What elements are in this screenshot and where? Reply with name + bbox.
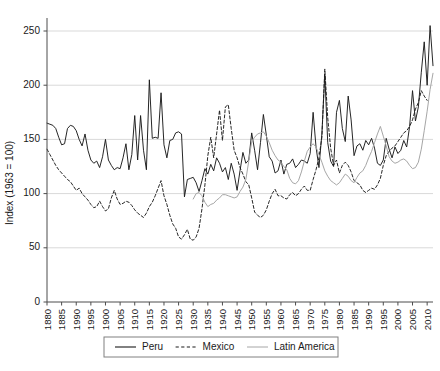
- x-tick-label-1: 1885: [56, 309, 67, 330]
- line-chart: 050100150200250 188018851990199519001905…: [0, 0, 440, 371]
- legend-label-latin-america: Latin America: [274, 341, 335, 352]
- x-tick-label-20: 1980: [334, 309, 345, 330]
- x-tick-label-17: 1965: [290, 309, 301, 330]
- y-tick-label-150: 150: [23, 133, 40, 144]
- y-tick-label-100: 100: [23, 187, 40, 198]
- x-tick-label-3: 1995: [85, 309, 96, 330]
- x-tick-label-13: 1945: [232, 309, 243, 330]
- x-tick-label-15: 1955: [261, 309, 272, 330]
- x-tick-label-2: 1990: [71, 309, 82, 330]
- x-tick-label-10: 1930: [188, 309, 199, 330]
- x-tick-label-18: 1970: [305, 309, 316, 330]
- y-axis-title: Index (1963 = 100): [4, 141, 15, 225]
- y-tick-label-250: 250: [23, 25, 40, 36]
- x-tick-label-19: 1975: [319, 309, 330, 330]
- y-tick-label-0: 0: [34, 296, 40, 307]
- x-tick-label-8: 1920: [158, 309, 169, 330]
- x-tick-label-12: 1940: [217, 309, 228, 330]
- chart-figure: 050100150200250 188018851990199519001905…: [0, 0, 440, 371]
- x-tick-label-26: 2010: [422, 309, 433, 330]
- x-tick-label-5: 1905: [115, 309, 126, 330]
- x-tick-label-6: 1910: [129, 309, 140, 330]
- x-tick-label-22: 1990: [363, 309, 374, 330]
- x-tick-label-7: 1915: [144, 309, 155, 330]
- y-tick-label-50: 50: [29, 241, 41, 252]
- x-tick-label-11: 1935: [202, 309, 213, 330]
- x-tick-label-9: 1925: [173, 309, 184, 330]
- x-tick-label-24: 2000: [392, 309, 403, 330]
- legend-label-peru: Peru: [142, 341, 163, 352]
- x-tick-label-14: 1950: [246, 309, 257, 330]
- x-tick-label-0: 1880: [42, 309, 53, 330]
- legend-label-mexico: Mexico: [203, 341, 235, 352]
- x-tick-label-16: 1960: [275, 309, 286, 330]
- x-tick-label-4: 1900: [100, 309, 111, 330]
- x-tick-label-23: 1995: [378, 309, 389, 330]
- x-tick-label-21: 1985: [349, 309, 360, 330]
- y-tick-label-200: 200: [23, 79, 40, 90]
- chart-legend: PeruMexicoLatin America: [104, 337, 338, 357]
- x-tick-label-25: 2005: [407, 309, 418, 330]
